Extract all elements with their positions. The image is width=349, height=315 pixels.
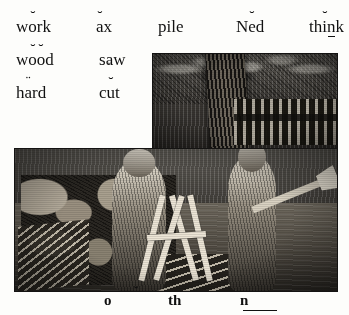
illustration [14, 53, 336, 290]
phonogram-th: th [168, 292, 240, 309]
boy-head [123, 149, 155, 178]
boy-head [238, 148, 266, 172]
word-row: work ax pile Ned think [0, 18, 349, 51]
word-ned: Ned [236, 18, 309, 35]
word-ax: ax [96, 18, 158, 35]
boy-with-axe [228, 155, 276, 291]
reader-page: work ax pile Ned think wood saw hard cut [0, 0, 349, 315]
cut-off-header [0, 0, 349, 4]
illustration-lower-plate [14, 148, 338, 292]
word-work: work [16, 18, 96, 35]
illustration-upper-plate [152, 53, 338, 152]
phonogram-row: o th n [0, 292, 349, 309]
sawbuck [144, 194, 228, 282]
phonogram-n: n [240, 292, 280, 309]
picket-fence [234, 99, 337, 146]
wood-pile [18, 219, 89, 292]
phonogram-o: o [104, 292, 168, 309]
word-pile: pile [158, 18, 236, 35]
word-think: think [309, 18, 349, 35]
